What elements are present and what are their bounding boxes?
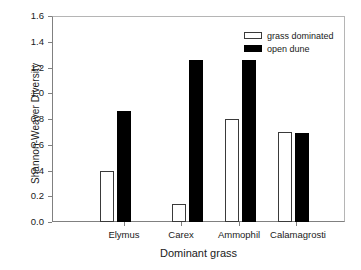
- legend-label-grass-dominated: grass dominated: [267, 31, 334, 41]
- x-label-ammophil: Ammophil: [218, 229, 260, 240]
- bar-elymus-open-dune: [117, 111, 131, 222]
- bar-chart: Shannon-Weaver Diversity 0.0 0.2 0.4 0.6…: [0, 0, 361, 270]
- legend-swatch-open-box-icon: [244, 32, 262, 39]
- y-tick-label: 0.8: [31, 113, 44, 124]
- legend-swatch-filled-box-icon: [244, 45, 262, 52]
- bar-calamagrosti-open-dune: [295, 133, 309, 222]
- x-label-carex: Carex: [168, 229, 193, 240]
- x-tick-mark-carex: [181, 222, 182, 226]
- y-tick-label: 1.0: [31, 87, 44, 98]
- bar-carex-open-dune: [189, 60, 203, 222]
- x-axis-title: Dominant grass: [52, 247, 345, 259]
- x-label-calamagrosti: Calamagrosti: [270, 229, 326, 240]
- x-tick-mark-elymus: [124, 222, 125, 226]
- y-tick-label: 1.6: [31, 10, 44, 21]
- bar-elymus-grass-dominated: [100, 171, 114, 223]
- x-tick-mark-ammophil: [239, 222, 240, 226]
- y-tick-label: 0.6: [31, 139, 44, 150]
- y-tick-label: 1.2: [31, 62, 44, 73]
- y-tick-label: 0.2: [31, 190, 44, 201]
- bar-calamagrosti-grass-dominated: [278, 132, 292, 222]
- bar-ammophil-grass-dominated: [225, 119, 239, 222]
- bar-carex-grass-dominated: [172, 204, 186, 222]
- y-tick-mark: [48, 222, 52, 223]
- y-tick-label: 0.0: [31, 216, 44, 227]
- legend-item-grass-dominated: grass dominated: [244, 30, 334, 41]
- x-tick-mark-calamagrosti: [296, 222, 297, 226]
- y-tick-label: 1.4: [31, 36, 44, 47]
- bar-ammophil-open-dune: [242, 60, 256, 222]
- legend: grass dominated open dune: [244, 30, 334, 56]
- x-label-elymus: Elymus: [108, 229, 139, 240]
- legend-label-open-dune: open dune: [267, 44, 310, 54]
- legend-item-open-dune: open dune: [244, 43, 334, 54]
- y-tick-label: 0.4: [31, 165, 44, 176]
